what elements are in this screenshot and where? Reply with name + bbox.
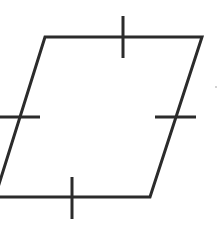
- rhombus-diagram: [0, 0, 217, 231]
- stray-dot: [215, 86, 217, 88]
